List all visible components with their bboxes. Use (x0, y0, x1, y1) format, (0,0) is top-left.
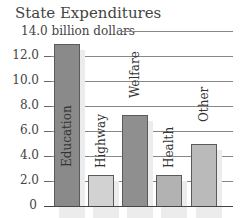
y-tick-label: 8.0 (0, 98, 39, 112)
y-axis-top-label: 14.0 billion dollars (21, 24, 135, 38)
y-tick-mark (44, 81, 51, 82)
y-tick-label: 4.0 (0, 148, 39, 162)
y-tick-mark (44, 106, 51, 107)
bar-label-health: Health (162, 127, 176, 168)
bar-label-education: Education (60, 105, 74, 167)
bar-label-other: Other (197, 87, 211, 122)
y-tick-label: 2.0 (0, 173, 39, 187)
x-axis-line (44, 206, 233, 207)
y-tick-mark (44, 181, 51, 182)
y-tick-label: 0 (0, 198, 37, 212)
bar-highway (88, 175, 114, 207)
bar-welfare (122, 115, 148, 207)
y-tick-label: 10.0 (0, 73, 39, 87)
bar-other (191, 144, 217, 208)
bar-label-welfare: Welfare (128, 51, 142, 98)
bar-health (156, 175, 182, 207)
y-tick-mark (44, 56, 51, 57)
y-tick-mark (44, 131, 51, 132)
y-tick-mark (44, 156, 51, 157)
y-tick-label: 12.0 (0, 48, 39, 62)
gridline (122, 31, 233, 32)
bar-label-highway: Highway (94, 114, 108, 168)
chart-title: State Expenditures (15, 4, 161, 22)
y-tick-label: 6.0 (0, 123, 39, 137)
